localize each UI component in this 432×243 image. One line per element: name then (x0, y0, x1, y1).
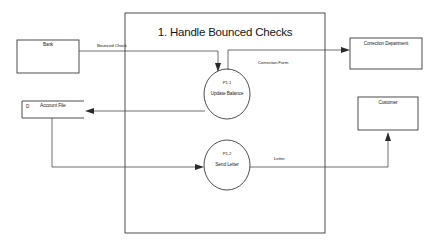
diagram-title: 1. Handle Bounced Checks (158, 27, 293, 39)
flow-bounced-check-label: Bounced Check (97, 44, 127, 48)
dfd-canvas: 1. Handle Bounced Checks Bank Correction… (0, 0, 432, 243)
data-store-account-file-id: D (26, 105, 29, 110)
flow-update-balance-to-store-arrowhead (85, 108, 94, 114)
flow-correction-form-arrowhead (341, 47, 350, 53)
external-entity-customer-label: Customer (378, 101, 397, 106)
external-entity-bank-label: Bank (43, 43, 53, 48)
process-p1-1-id: P1.1 (223, 81, 232, 85)
process-p1-2-id: P1.2 (223, 152, 232, 156)
flow-correction-form-label: Correction Form (258, 61, 288, 65)
process-p1-2-label: Send Letter (215, 163, 239, 168)
flow-letter-arrowhead (385, 132, 391, 141)
system-boundary-box (125, 13, 325, 233)
process-p1-1-label: Update Balance (211, 92, 244, 97)
data-store-account-file-label: Account File (40, 104, 66, 109)
external-entity-correction-department-label: Correction Department (364, 42, 408, 47)
flow-letter-label: Letter (274, 157, 285, 161)
